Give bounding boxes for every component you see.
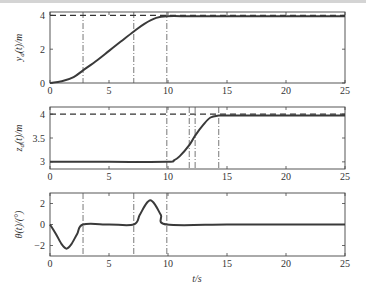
x-tick-label: 25 [340,85,350,96]
x-tick-label: 10 [163,171,173,182]
x-tick-label: 5 [107,85,112,96]
data-series-line [50,200,345,248]
x-tick-label: 25 [340,258,350,269]
y-tick-label: 4 [40,10,45,21]
axes-frame [50,12,345,83]
chart-figure: 0510152025024yd(t)/m051015202533.54zd(t)… [0,0,366,298]
x-tick-label: 0 [48,258,53,269]
data-series-line [50,16,345,83]
y-tick-label: 4 [40,109,45,120]
panel-theta: 0510152025−202θ(t)/(°) [13,193,350,269]
x-tick-label: 10 [163,258,173,269]
x-tick-label: 15 [222,258,232,269]
y-axis-label: yd(t)/m [13,34,26,62]
y-tick-label: 2 [40,44,45,55]
data-series-line [50,115,345,162]
y-tick-label: 3.5 [33,133,46,144]
x-tick-label: 0 [48,85,53,96]
panel-z: 051015202533.54zd(t)/m [13,107,350,182]
y-tick-label: 0 [40,78,45,89]
x-tick-label: 20 [281,85,291,96]
y-axis-label: θ(t)/(°) [13,210,25,238]
x-tick-label: 5 [107,171,112,182]
x-tick-label: 20 [281,258,291,269]
x-tick-label: 20 [281,171,291,182]
x-tick-label: 10 [163,85,173,96]
y-tick-label: −2 [34,240,45,251]
x-tick-label: 15 [222,85,232,96]
x-tick-label: 25 [340,171,350,182]
y-axis-label: zd(t)/m [13,125,26,153]
x-axis-label: t/s [192,273,202,284]
y-tick-label: 2 [40,198,45,209]
x-tick-label: 15 [222,171,232,182]
x-tick-label: 0 [48,171,53,182]
panel-y: 0510152025024yd(t)/m [13,10,350,96]
y-tick-label: 3 [40,156,45,167]
x-tick-label: 5 [107,258,112,269]
y-tick-label: 0 [40,219,45,230]
